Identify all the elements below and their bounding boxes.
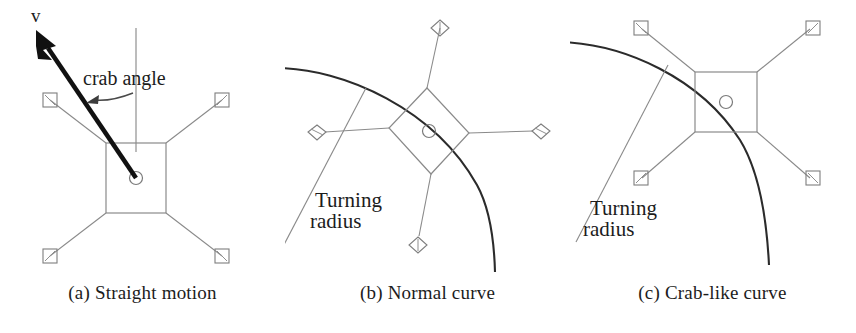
- panel-crab-like-curve: Turning radius (c) Crab-like curve: [570, 0, 855, 333]
- strut-rear-right: [419, 174, 431, 236]
- caption-panel-a: (a) Straight motion: [0, 282, 285, 304]
- figure-steering-modes: v crab angle (a) Straight motion: [0, 0, 856, 333]
- strut-rear-right: [166, 213, 222, 256]
- strut-rear-left: [642, 132, 695, 178]
- crab-angle-arrowhead: [86, 95, 99, 104]
- strut-front-right: [469, 131, 533, 133]
- caption-panel-b: (b) Normal curve: [285, 282, 570, 304]
- wheel-rear-right: [215, 249, 229, 263]
- strut-rear-right: [757, 132, 810, 178]
- wheel-front-left: [43, 93, 57, 107]
- wheel-front-right: [532, 124, 550, 139]
- panel-normal-curve: Turning radius (b) Normal curve: [285, 0, 570, 333]
- panel-straight-motion: v crab angle (a) Straight motion: [0, 0, 285, 333]
- turning-radius-label-line2: radius: [310, 209, 361, 233]
- wheel-front-right: [806, 21, 820, 35]
- wheel-rear-left: [43, 249, 57, 263]
- strut-front-left: [427, 28, 440, 88]
- caption-panel-c: (c) Crab-like curve: [570, 282, 855, 304]
- chassis-rectangle-rotated: [389, 88, 469, 174]
- turning-arc: [285, 68, 495, 272]
- wheel-rear-right: [409, 237, 427, 253]
- wheel-rear-right: [806, 171, 820, 185]
- crab-angle-arc: [94, 93, 133, 100]
- crab-angle-label: crab angle: [83, 67, 166, 90]
- strut-front-right: [757, 29, 810, 72]
- wheel-front-right: [215, 93, 229, 107]
- wheel-rear-left: [634, 171, 648, 185]
- center-hub-circle: [720, 96, 733, 109]
- strut-rear-left: [50, 213, 106, 256]
- wheel-rear-left: [308, 125, 326, 140]
- strut-rear-left: [325, 128, 389, 132]
- turning-radius-label-line2: radius: [583, 217, 634, 241]
- strut-front-left: [642, 29, 695, 72]
- chassis-rectangle: [695, 72, 757, 132]
- strut-front-right: [166, 100, 222, 143]
- wheel-front-left: [634, 21, 648, 35]
- velocity-label: v: [31, 5, 41, 26]
- wheel-front-left: [431, 20, 449, 36]
